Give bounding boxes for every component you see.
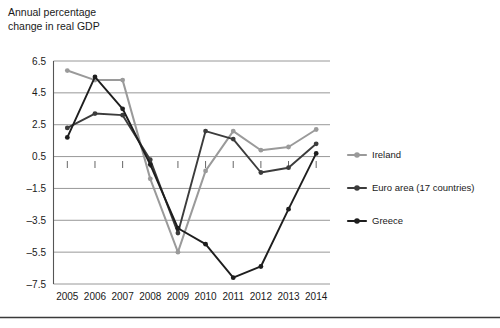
data-point [258,170,263,175]
data-point [314,141,319,146]
legend-swatch-marker [354,152,360,158]
x-axis-tick-label: 2014 [305,291,328,302]
data-point [231,129,236,134]
data-point [203,242,208,247]
y-axis-tick-label: –7.5 [27,279,47,290]
data-point [148,176,153,181]
legend-swatch-marker [354,218,360,224]
data-point [93,111,98,116]
chart-figure: Annual percentage change in real GDP 6.5… [0,0,500,328]
data-point [286,145,291,150]
x-axis-tick-label: 2007 [112,291,135,302]
series-line-greece [67,77,316,278]
legend-item-label: Greece [372,215,403,226]
chart-canvas: 6.54.52.50.5–1.5–3.5–5.5–7.5 20052006200… [0,0,500,328]
data-point [286,165,291,170]
chart-legend: IrelandEuro area (17 countries)Greece [348,149,474,226]
series-line-ireland [67,71,316,253]
x-axis-tick-label: 2006 [84,291,107,302]
data-point [258,148,263,153]
data-point [120,78,125,83]
data-point [148,162,153,167]
data-point [314,151,319,156]
data-point [65,126,70,131]
data-point [286,207,291,212]
y-axis-tick-label: –5.5 [27,247,47,258]
data-point [176,250,181,255]
x-axis-tick-marks [67,161,316,168]
data-point [203,129,208,134]
legend-swatch-marker [354,185,360,191]
data-point [120,106,125,111]
x-axis-tick-label: 2005 [56,291,79,302]
data-point [93,75,98,80]
y-axis-tick-labels: 6.54.52.50.5–1.5–3.5–5.5–7.5 [27,56,47,290]
data-point [258,264,263,269]
x-axis-tick-label: 2008 [139,291,162,302]
x-axis-tick-label: 2009 [167,291,190,302]
data-point [176,231,181,236]
y-axis-tick-label: 4.5 [32,87,46,98]
data-point [65,68,70,73]
data-point [203,169,208,174]
y-axis-tick-label: –3.5 [27,215,47,226]
series-group [65,68,319,280]
data-point [231,275,236,280]
data-point [314,127,319,132]
data-point [231,137,236,142]
data-point [65,135,70,140]
legend-item-label: Ireland [372,149,401,160]
x-axis-tick-label: 2010 [194,291,217,302]
y-axis-tick-label: 2.5 [32,119,46,130]
gridlines-group [54,61,331,284]
x-axis-tick-label: 2012 [250,291,273,302]
data-point [176,226,181,231]
y-axis-tick-label: 6.5 [32,56,46,67]
series-line-euro-area-17-countries [67,114,316,233]
y-axis-tick-label: –1.5 [27,183,47,194]
y-axis-tick-label: 0.5 [32,151,46,162]
x-axis-tick-label: 2011 [222,291,244,302]
x-axis-tick-label: 2013 [277,291,300,302]
x-axis-tick-labels: 2005200620072008200920102011201220132014 [56,291,328,302]
legend-item-label: Euro area (17 countries) [372,182,474,193]
